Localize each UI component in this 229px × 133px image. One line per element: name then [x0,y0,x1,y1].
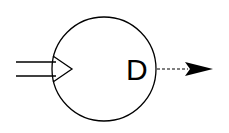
node-label: D [126,53,148,86]
output-arrow-icon [157,62,213,76]
diagram-canvas: D [0,0,229,133]
input-arrow-icon [16,56,72,82]
